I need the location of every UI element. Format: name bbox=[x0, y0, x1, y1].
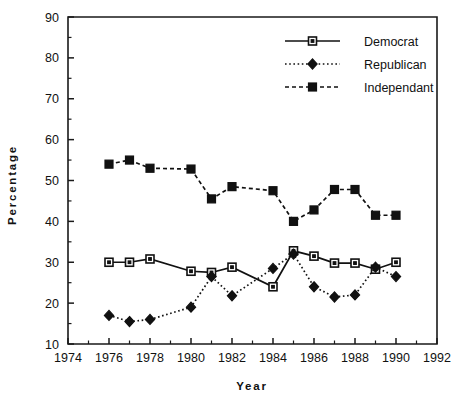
data-point bbox=[351, 259, 359, 267]
legend-label: Republican bbox=[364, 58, 427, 72]
y-axis-ticks bbox=[68, 17, 74, 344]
x-tick-label: 1984 bbox=[259, 351, 287, 365]
data-point bbox=[126, 258, 134, 266]
chart-legend: DemocratRepublicanIndependant bbox=[285, 35, 434, 95]
data-point bbox=[331, 259, 339, 267]
data-point bbox=[227, 291, 236, 301]
data-point bbox=[146, 164, 154, 172]
chart-container: 102030405060708090 197419761978198019821… bbox=[0, 0, 461, 407]
series-democrat bbox=[105, 247, 400, 291]
x-tick-label: 1976 bbox=[95, 351, 123, 365]
data-point bbox=[290, 217, 298, 225]
x-tick-label: 1982 bbox=[218, 351, 246, 365]
x-tick-label: 1990 bbox=[382, 351, 410, 365]
data-point bbox=[105, 258, 113, 266]
y-axis-tick-labels: 102030405060708090 bbox=[45, 11, 59, 352]
data-point bbox=[392, 211, 400, 219]
series-independant bbox=[105, 156, 400, 225]
data-point bbox=[208, 195, 216, 203]
x-axis-ticks bbox=[68, 338, 437, 344]
x-tick-label: 1992 bbox=[423, 351, 451, 365]
x-tick-label: 1974 bbox=[54, 351, 82, 365]
data-point bbox=[228, 263, 236, 271]
legend-label: Democrat bbox=[364, 35, 419, 49]
x-tick-label: 1986 bbox=[300, 351, 328, 365]
x-tick-label: 1978 bbox=[136, 351, 164, 365]
data-point bbox=[125, 317, 134, 327]
legend-item-republican[interactable]: Republican bbox=[285, 58, 427, 72]
data-point bbox=[392, 258, 400, 266]
data-point bbox=[146, 255, 154, 263]
data-point bbox=[105, 160, 113, 168]
data-point bbox=[269, 283, 277, 291]
series-layer bbox=[104, 156, 400, 326]
y-tick-label: 40 bbox=[45, 215, 59, 229]
data-point bbox=[372, 211, 380, 219]
x-tick-label: 1988 bbox=[341, 351, 369, 365]
legend-marker bbox=[309, 83, 317, 91]
legend-item-independant[interactable]: Independant bbox=[285, 81, 434, 95]
y-tick-label: 60 bbox=[45, 133, 59, 147]
y-tick-label: 70 bbox=[45, 92, 59, 106]
legend-marker bbox=[309, 37, 317, 45]
data-point bbox=[330, 292, 339, 302]
data-point bbox=[228, 183, 236, 191]
y-tick-label: 50 bbox=[45, 174, 59, 188]
data-point bbox=[187, 267, 195, 275]
legend-item-democrat[interactable]: Democrat bbox=[285, 35, 419, 49]
data-point bbox=[104, 310, 113, 320]
data-point bbox=[269, 187, 277, 195]
legend-marker bbox=[308, 59, 317, 69]
data-point bbox=[126, 156, 134, 164]
line-chart: 102030405060708090 197419761978198019821… bbox=[0, 0, 461, 407]
legend-label: Independant bbox=[364, 81, 434, 95]
x-tick-label: 1980 bbox=[177, 351, 205, 365]
y-tick-label: 90 bbox=[45, 11, 59, 25]
data-point bbox=[309, 282, 318, 292]
data-point bbox=[187, 165, 195, 173]
x-axis-title: Year bbox=[236, 380, 268, 392]
y-tick-label: 10 bbox=[45, 338, 59, 352]
data-point bbox=[331, 185, 339, 193]
data-point bbox=[310, 252, 318, 260]
data-point bbox=[145, 314, 154, 324]
y-tick-label: 30 bbox=[45, 256, 59, 270]
y-tick-label: 20 bbox=[45, 297, 59, 311]
y-tick-label: 80 bbox=[45, 51, 59, 65]
data-point bbox=[310, 206, 318, 214]
y-axis-title: Percentage bbox=[6, 145, 18, 225]
data-point bbox=[268, 263, 277, 273]
x-axis-tick-labels: 1974197619781980198219841986198819901992 bbox=[54, 351, 451, 365]
data-point bbox=[351, 185, 359, 193]
data-point bbox=[391, 272, 400, 282]
